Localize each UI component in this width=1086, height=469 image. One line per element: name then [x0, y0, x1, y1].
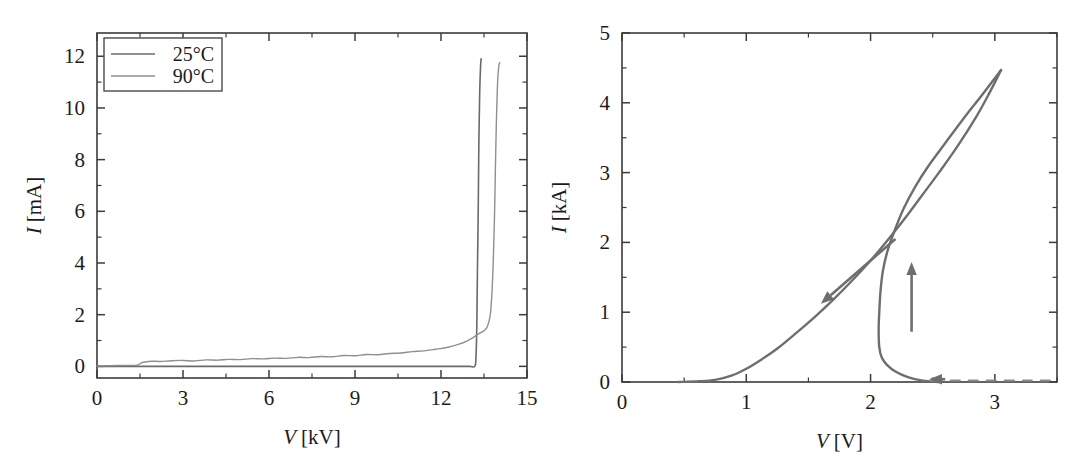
y-tick-label-right-0: 0: [600, 370, 611, 394]
y-tick-label-left-6: 12: [64, 44, 85, 68]
x-tick-label-right-1: 1: [741, 390, 752, 414]
y-tick-label-right-3: 3: [600, 161, 611, 185]
curve-90-c: [97, 63, 500, 366]
right-axis-labels: 0123012345V[V]I[kA]: [547, 21, 1000, 453]
down-sweep-arrow-shaft: [831, 239, 896, 295]
plot-frame: [622, 33, 1057, 382]
x-tick-label-left-5: 15: [517, 386, 538, 410]
up-sweep-arrow: [906, 262, 916, 332]
right-curves: [678, 70, 1051, 382]
y-tick-label-left-1: 2: [75, 303, 86, 327]
y-tick-label-left-4: 8: [75, 148, 86, 172]
y-tick-label-left-5: 10: [64, 96, 85, 120]
curve-down-sweep-branch: [678, 70, 1001, 382]
x-tick-label-right-0: 0: [617, 390, 628, 414]
y-axis-label-left: I[mA]: [22, 177, 46, 236]
y-tick-label-left-2: 4: [75, 251, 86, 275]
x-axis-label-right: V[V]: [816, 429, 863, 453]
x-tick-label-left-0: 0: [92, 386, 103, 410]
y-tick-label-right-5: 5: [600, 21, 611, 45]
chart-panel-right: 0123012345V[V]I[kA]: [540, 0, 1086, 469]
x-axis-label-left: V[kV]: [283, 425, 340, 449]
x-tick-label-left-3: 9: [350, 386, 361, 410]
left-plot-svg: 25°C90°C 03691215024681012V[kV]I[mA]: [0, 0, 560, 469]
right-annotations: [821, 239, 945, 384]
legend-label-1: 90°C: [173, 65, 214, 87]
x-tick-label-left-2: 6: [264, 386, 275, 410]
legend-label-0: 25°C: [173, 43, 214, 65]
chart-panel-left: 25°C90°C 03691215024681012V[kV]I[mA]: [0, 0, 560, 469]
x-tick-label-left-1: 3: [178, 386, 189, 410]
y-tick-label-right-1: 1: [600, 300, 611, 324]
left-axis-labels: 03691215024681012V[kV]I[mA]: [22, 44, 538, 449]
x-tick-label-left-4: 12: [431, 386, 452, 410]
down-sweep-arrow: [821, 239, 896, 304]
left-curves: [97, 59, 500, 367]
left-legend: 25°C90°C: [104, 38, 222, 91]
figure-root: 25°C90°C 03691215024681012V[kV]I[mA] 012…: [0, 0, 1086, 469]
up-sweep-arrow-head: [906, 262, 916, 275]
right-plot-svg: 0123012345V[V]I[kA]: [540, 0, 1086, 469]
curve-up-sweep-branch: [879, 70, 1001, 382]
x-tick-label-right-2: 2: [865, 390, 876, 414]
y-tick-label-right-2: 2: [600, 230, 611, 254]
right-axes: [622, 33, 1057, 382]
y-axis-label-right: I[kA]: [547, 182, 571, 235]
x-tick-label-right-3: 3: [990, 390, 1001, 414]
y-tick-label-left-0: 0: [75, 354, 86, 378]
curve-25-c: [97, 59, 481, 367]
y-tick-label-left-3: 6: [75, 199, 86, 223]
y-tick-label-right-4: 4: [600, 91, 611, 115]
